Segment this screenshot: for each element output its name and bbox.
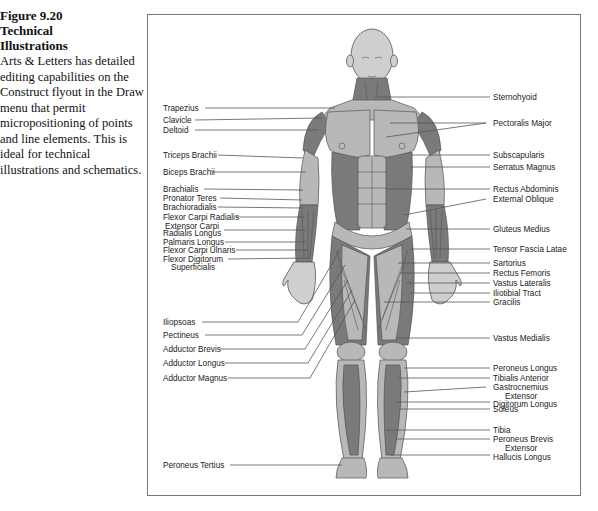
label-pectineus: Pectineus [163, 331, 199, 340]
label-tensor-fascia-latae: Tensor Fascia Latae [493, 245, 567, 254]
label-rectus-femoris: Rectus Femoris [493, 269, 550, 278]
label-pronator-teres: Pronator Teres [163, 194, 217, 203]
label-gluteus-medius: Gluteus Medius [493, 225, 550, 234]
label-iliotibial-tract: Iliotibial Tract [493, 289, 542, 298]
label-peroneus-brevis: Peroneus Brevis [493, 435, 553, 444]
label-clavicle: Clavicle [163, 116, 192, 125]
label-flexor-carpi-ulnaris: Flexor Carpi Ulnaris [163, 246, 235, 255]
label-radialis-longus: Radialis Longus [163, 229, 221, 238]
label-tibia: Tibia [493, 426, 511, 435]
label-rectus-abdominis: Rectus Abdominis [493, 185, 559, 194]
label-brachioradialis: Brachioradialis [163, 203, 217, 212]
label-biceps-brachii: Biceps Brachii [163, 168, 215, 177]
label-soleus: Soleus [493, 405, 518, 414]
label-peroneus-tertius: Peroneus Tertius [163, 461, 224, 470]
label-pectoralis-major: Pectoralis Major [493, 119, 552, 128]
label-gracilis: Gracilis [493, 298, 520, 307]
label-serratus-magnus: Serratus Magnus [493, 163, 555, 172]
label-vastus-medialis: Vastus Medialis [493, 334, 550, 343]
label-brachialis: Brachialis [163, 185, 199, 194]
left-labels: Trapezius Clavicle Deltoid Triceps Brach… [163, 104, 239, 470]
label-deltoid: Deltoid [163, 126, 189, 135]
label-subscapularis: Subscapularis [493, 151, 544, 160]
label-flexor-carpi-radialis: Flexor Carpi Radialis [163, 213, 239, 222]
label-gastrocnemius: Gastrocnemius [493, 383, 548, 392]
label-hallucis-longus: Hallucis Longus [493, 453, 551, 462]
label-sartorius: Sartorius [493, 259, 526, 268]
label-trapezius: Trapezius [163, 104, 199, 113]
label-vastus-lateralis: Vastus Lateralis [493, 279, 551, 288]
label-sternohyoid: Sternohyoid [493, 93, 537, 102]
label-extensor-2: Extensor [505, 444, 538, 453]
label-superficialis: Superficialis [171, 263, 215, 272]
right-labels: Sternohyoid Pectoralis Major Subscapular… [493, 93, 567, 462]
human-figure [283, 29, 462, 478]
label-adductor-brevis: Adductor Brevis [163, 345, 221, 354]
label-tibialis-anterior: Tibialis Anterior [493, 374, 549, 383]
label-adductor-magnus: Adductor Magnus [163, 374, 227, 383]
label-triceps-brachii: Triceps Brachii [163, 151, 217, 160]
label-adductor-longus: Adductor Longus [163, 359, 225, 368]
label-iliopsoas: Iliopsoas [163, 318, 195, 327]
anatomy-illustration: Trapezius Clavicle Deltoid Triceps Brach… [0, 0, 598, 511]
label-external-oblique: External Oblique [493, 195, 554, 204]
label-peroneus-longus: Peroneus Longus [493, 364, 557, 373]
